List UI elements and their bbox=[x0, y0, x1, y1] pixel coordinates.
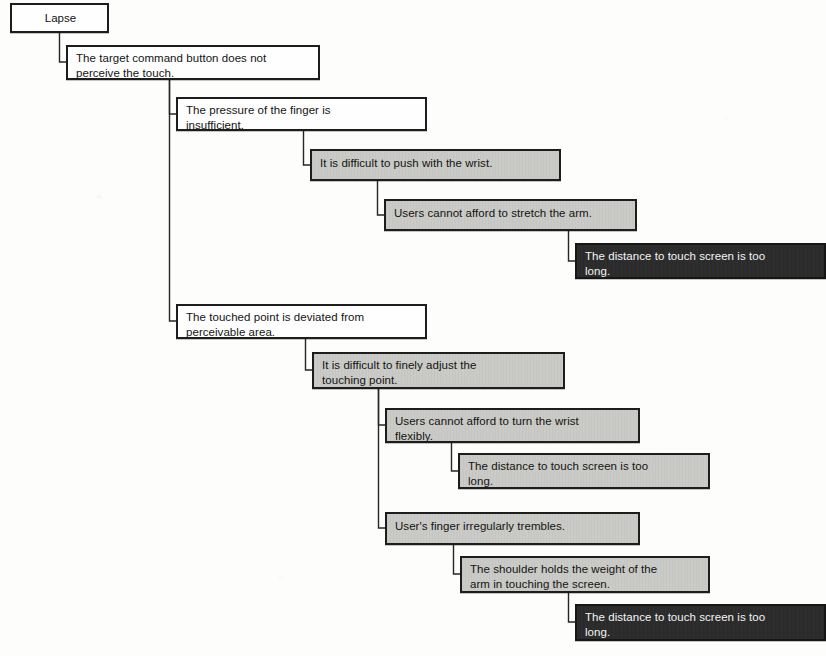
tree-node-n5[interactable]: Users cannot afford to stretch the arm. bbox=[384, 199, 637, 231]
tree-node-n9[interactable]: Users cannot afford to turn the wrist fl… bbox=[385, 408, 640, 443]
tree-node-n10[interactable]: The distance to touch screen is too long… bbox=[458, 453, 710, 489]
tree-node-label: The target command button does not perce… bbox=[76, 51, 312, 80]
tree-node-n2[interactable]: The target command button does not perce… bbox=[66, 45, 320, 80]
tree-node-label: The distance to touch screen is too long… bbox=[585, 249, 818, 279]
tree-node-label: The touched point is deviated from perce… bbox=[186, 310, 419, 339]
tree-node-n12[interactable]: The shoulder holds the weight of the arm… bbox=[460, 556, 710, 593]
tree-node-n3[interactable]: The pressure of the finger is insufficie… bbox=[176, 97, 427, 131]
tree-node-label: The distance to touch screen is too long… bbox=[585, 610, 818, 640]
tree-node-n6[interactable]: The distance to touch screen is too long… bbox=[575, 243, 826, 279]
tree-node-n1[interactable]: Lapse bbox=[10, 3, 109, 33]
tree-node-label: It is difficult to finely adjust the tou… bbox=[322, 358, 557, 388]
tree-node-n7[interactable]: The touched point is deviated from perce… bbox=[176, 304, 427, 339]
tree-node-label: The shoulder holds the weight of the arm… bbox=[470, 562, 702, 592]
tree-node-label: Users cannot afford to turn the wrist fl… bbox=[395, 414, 632, 443]
tree-node-n11[interactable]: User's finger irregularly trembles. bbox=[385, 512, 640, 545]
tree-node-label: It is difficult to push with the wrist. bbox=[320, 156, 553, 171]
tree-node-label: The pressure of the finger is insufficie… bbox=[186, 103, 419, 131]
diagram-canvas: LapseThe target command button does not … bbox=[0, 0, 826, 656]
tree-node-label: Lapse bbox=[20, 11, 101, 26]
tree-node-label: The distance to touch screen is too long… bbox=[468, 459, 702, 489]
tree-node-label: Users cannot afford to stretch the arm. bbox=[394, 206, 629, 221]
tree-node-label: User's finger irregularly trembles. bbox=[395, 519, 632, 534]
tree-node-n4[interactable]: It is difficult to push with the wrist. bbox=[310, 149, 561, 181]
tree-node-n13[interactable]: The distance to touch screen is too long… bbox=[575, 604, 826, 641]
tree-node-n8[interactable]: It is difficult to finely adjust the tou… bbox=[312, 352, 565, 389]
